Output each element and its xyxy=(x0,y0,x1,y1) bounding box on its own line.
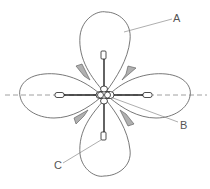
label-c: C xyxy=(54,160,62,171)
label-a: A xyxy=(173,13,180,24)
radiation-pattern-diagram xyxy=(0,0,210,189)
label-b: B xyxy=(180,120,187,131)
